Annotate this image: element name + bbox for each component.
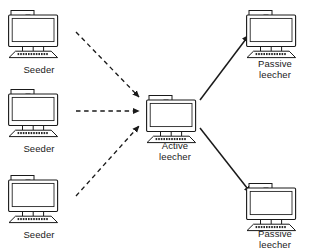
edge-seeder-top-to-active [76,32,139,97]
diagram-canvas [0,0,323,251]
node-label-passive-leecher-bottom: Passive leecher [240,228,310,250]
desktop-computer-icon-passive-leecher-top [247,11,296,58]
node-layer [9,11,296,231]
node-label-seeder-middle: Seeder [8,143,70,154]
node-label-passive-leecher-top: Passive leecher [240,58,310,80]
node-label-seeder-bottom: Seeder [8,229,70,240]
edge-seeder-bottom-to-active [76,126,139,196]
node-label-active-leecher: Active leecher [140,140,210,162]
desktop-computer-icon-passive-leecher-bottom [247,184,296,231]
network-topology-diagram: Seeder Seeder Seeder Active leecher Pass… [0,0,323,251]
node-label-seeder-top: Seeder [8,64,70,75]
desktop-computer-icon-active-leecher [147,96,196,143]
desktop-computer-icon-seeder-middle [9,90,58,137]
desktop-computer-icon-seeder-bottom [9,176,58,223]
desktop-computer-icon-seeder-top [9,11,58,58]
